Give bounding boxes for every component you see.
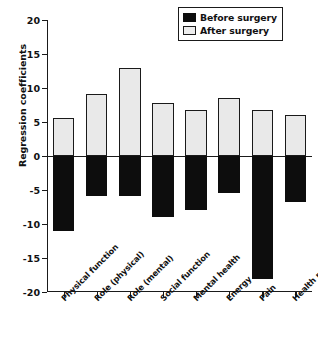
- y-tick--15: [42, 258, 47, 259]
- regression-coefficients-bar-chart: Regression coefficients 20151050-5-10-15…: [0, 0, 318, 356]
- y-tick-label-5: 5: [33, 117, 40, 128]
- y-tick-0: [42, 156, 47, 157]
- bar-after-surgery: [218, 98, 240, 156]
- legend-label-before-surgery: Before surgery: [200, 12, 277, 23]
- y-tick-label--5: -5: [29, 185, 40, 196]
- y-tick--5: [42, 190, 47, 191]
- y-tick-label--20: -20: [23, 287, 40, 298]
- bar-after-surgery: [119, 68, 141, 156]
- legend-item-before-surgery: Before surgery: [183, 11, 277, 24]
- bar-after-surgery: [152, 103, 174, 156]
- bar-group: [152, 20, 174, 292]
- bar-before-surgery: [252, 156, 274, 279]
- x-axis-labels: Physical functionRole (physical)Role (me…: [47, 296, 312, 356]
- legend-item-after-surgery: After surgery: [183, 24, 277, 37]
- bar-before-surgery: [53, 156, 75, 231]
- legend-swatch-after-surgery: [183, 26, 196, 35]
- y-tick-10: [42, 88, 47, 89]
- bar-group: [53, 20, 75, 292]
- bar-after-surgery: [252, 110, 274, 156]
- bar-before-surgery: [86, 156, 108, 196]
- bar-after-surgery: [185, 110, 207, 156]
- bar-before-surgery: [185, 156, 207, 210]
- y-tick-label--10: -10: [23, 219, 40, 230]
- y-tick-5: [42, 122, 47, 123]
- bar-after-surgery: [285, 115, 307, 156]
- bar-before-surgery: [218, 156, 240, 193]
- bar-group: [252, 20, 274, 292]
- y-tick-15: [42, 54, 47, 55]
- chart-legend: Before surgery After surgery: [178, 7, 283, 41]
- y-tick--10: [42, 224, 47, 225]
- legend-swatch-before-surgery: [183, 13, 196, 22]
- y-tick-label-10: 10: [27, 83, 40, 94]
- bar-before-surgery: [285, 156, 307, 202]
- bar-before-surgery: [152, 156, 174, 217]
- y-tick-20: [42, 20, 47, 21]
- y-tick-label-0: 0: [33, 151, 40, 162]
- plot-area: 20151050-5-10-15-20: [47, 20, 312, 292]
- bar-after-surgery: [53, 118, 75, 156]
- y-tick-label--15: -15: [23, 253, 40, 264]
- legend-label-after-surgery: After surgery: [200, 25, 269, 36]
- bar-before-surgery: [119, 156, 141, 196]
- y-tick-label-20: 20: [27, 15, 40, 26]
- bar-after-surgery: [86, 94, 108, 156]
- bar-group: [218, 20, 240, 292]
- y-tick--20: [42, 292, 47, 293]
- bar-group: [285, 20, 307, 292]
- y-tick-label-15: 15: [27, 49, 40, 60]
